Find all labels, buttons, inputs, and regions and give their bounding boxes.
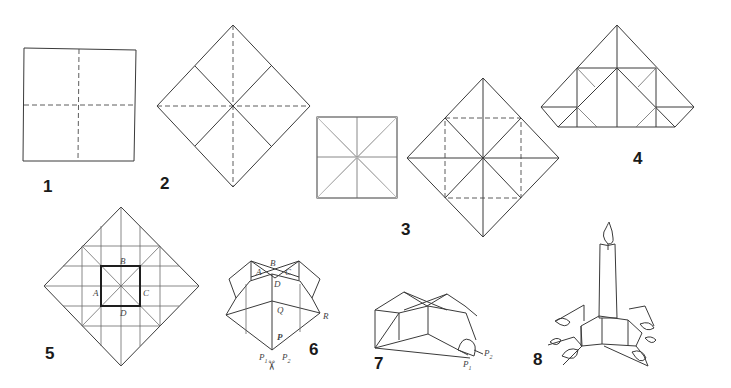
step-6-3d-form bbox=[226, 261, 320, 350]
step-number-4: 4 bbox=[633, 150, 642, 167]
step-number-1: 1 bbox=[43, 178, 52, 195]
label-7-p1: P1 bbox=[463, 360, 472, 371]
label-6-p2: P2 bbox=[282, 353, 291, 364]
origami-diagram bbox=[0, 0, 731, 388]
step-1-square bbox=[23, 48, 136, 161]
label-6-b: B bbox=[270, 259, 276, 268]
step-2-diamond bbox=[157, 25, 310, 187]
label-6-d: D bbox=[274, 280, 281, 289]
step-number-3: 3 bbox=[401, 221, 410, 238]
step-8-candle-holder bbox=[548, 222, 656, 366]
label-5-d: D bbox=[120, 309, 127, 318]
label-5-c: C bbox=[143, 289, 149, 298]
label-6-p: P bbox=[277, 333, 283, 342]
step-number-5: 5 bbox=[45, 345, 54, 362]
step-3-diamond bbox=[407, 78, 559, 237]
label-6-a: A bbox=[256, 268, 262, 277]
label-5-a: A bbox=[93, 289, 99, 298]
step-3-square bbox=[317, 117, 397, 198]
label-6-q: Q bbox=[277, 306, 284, 315]
scissors-icon: ✂ bbox=[265, 360, 278, 371]
step-number-2: 2 bbox=[160, 175, 169, 192]
step-number-6: 6 bbox=[309, 341, 318, 358]
step-number-8: 8 bbox=[533, 351, 542, 368]
label-5-b: B bbox=[120, 257, 126, 266]
label-7-p2: P2 bbox=[484, 349, 493, 360]
label-6-r: R bbox=[323, 312, 329, 321]
step-7-curling bbox=[375, 292, 483, 358]
label-6-c: C bbox=[285, 268, 291, 277]
step-5-crease-pattern bbox=[44, 207, 199, 366]
step-number-7: 7 bbox=[374, 355, 383, 372]
step-4-triangle bbox=[541, 25, 694, 127]
